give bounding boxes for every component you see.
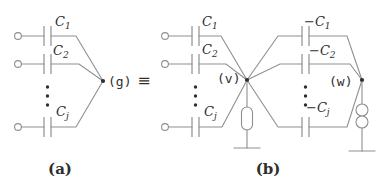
wire [247, 80, 302, 127]
node-dot [101, 79, 105, 83]
capacitor-icon [192, 54, 199, 74]
capacitor-label: −Cj [306, 100, 330, 117]
capacitor-label: C2 [202, 42, 218, 59]
terminal-port [15, 61, 22, 68]
node-label: (g) [108, 74, 131, 89]
terminal-port [15, 124, 22, 131]
capacitor-label: C1 [202, 14, 218, 31]
capacitor-icon [192, 117, 199, 137]
capacitor-icon [44, 54, 51, 74]
vertical-dots-icon [194, 85, 197, 106]
wire [247, 36, 302, 80]
terminal-port [15, 33, 22, 40]
terminal-port [162, 33, 169, 40]
capacitor-icon [44, 26, 51, 46]
capacitor-label: Cj [56, 104, 69, 121]
equivalence-symbol: ≡ [137, 71, 150, 90]
capacitor-icon [192, 26, 199, 46]
source-icon [356, 104, 368, 116]
capacitor-label: Cj [204, 104, 217, 121]
node-label: (w) [329, 74, 352, 89]
node-label: (v) [217, 71, 240, 86]
circuit-figure: C1 C2 Cj (g) (a) ≡ [0, 0, 384, 192]
vertical-dots-icon [46, 85, 49, 106]
diagram-a: C1 C2 Cj (g) (a) [15, 14, 132, 178]
diagram-b: C1 C2 Cj −C1 −C2 −Cj (v) (w) (b) [162, 14, 375, 178]
source-icon [356, 116, 368, 128]
capacitor-label: C2 [53, 43, 69, 60]
capacitor-label: −C1 [304, 14, 331, 31]
caption: (b) [256, 160, 281, 178]
capacitor-icon [302, 117, 309, 137]
terminal-port [162, 61, 169, 68]
capacitor-icon [302, 54, 309, 74]
wire [247, 64, 302, 80]
capacitor-label: −C2 [309, 43, 336, 60]
capacitor-label: C1 [55, 14, 71, 31]
caption: (a) [48, 160, 72, 178]
impedance-icon [242, 107, 253, 130]
terminal-port [162, 124, 169, 131]
capacitor-icon [44, 117, 51, 137]
wire [51, 64, 103, 81]
capacitor-icon [302, 26, 309, 46]
